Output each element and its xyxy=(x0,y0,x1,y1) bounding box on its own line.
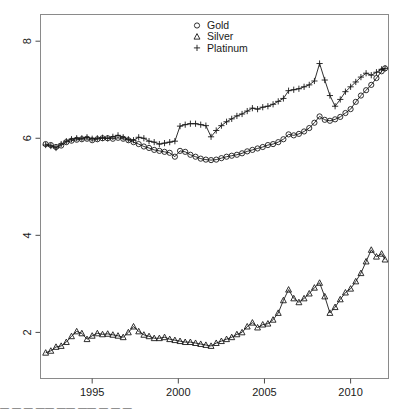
circle-icon xyxy=(194,23,199,28)
y-axis-tick-label: 4 xyxy=(22,232,34,238)
plot-canvas: 24681995200020052010GoldSilverPlatinum xyxy=(0,0,398,400)
plot-box xyxy=(41,15,389,379)
series-line xyxy=(46,64,385,148)
x-axis-tick-label: 2010 xyxy=(338,386,362,398)
chart-screenshot: 24681995200020052010GoldSilverPlatinum —… xyxy=(0,0,398,414)
x-axis-tick-label: 1995 xyxy=(80,386,104,398)
series-line xyxy=(46,250,385,353)
triangle-icon xyxy=(194,34,200,40)
legend-label-platinum: Platinum xyxy=(207,42,248,54)
series-line xyxy=(46,68,385,160)
legend: GoldSilverPlatinum xyxy=(194,19,248,53)
series-silver xyxy=(43,247,388,355)
y-axis-tick-label: 2 xyxy=(22,329,34,335)
y-axis-tick-label: 8 xyxy=(22,38,34,44)
x-axis-tick-label: 2000 xyxy=(166,386,190,398)
series-gold xyxy=(43,66,388,163)
legend-label-gold: Gold xyxy=(207,19,229,31)
series-platinum xyxy=(43,60,389,151)
y-axis-tick-label: 6 xyxy=(22,135,34,141)
bottom-text-fragment: — — — —— —— —— — — — xyxy=(0,403,398,414)
x-axis-tick-label: 2005 xyxy=(252,386,276,398)
legend-label-silver: Silver xyxy=(207,30,234,42)
